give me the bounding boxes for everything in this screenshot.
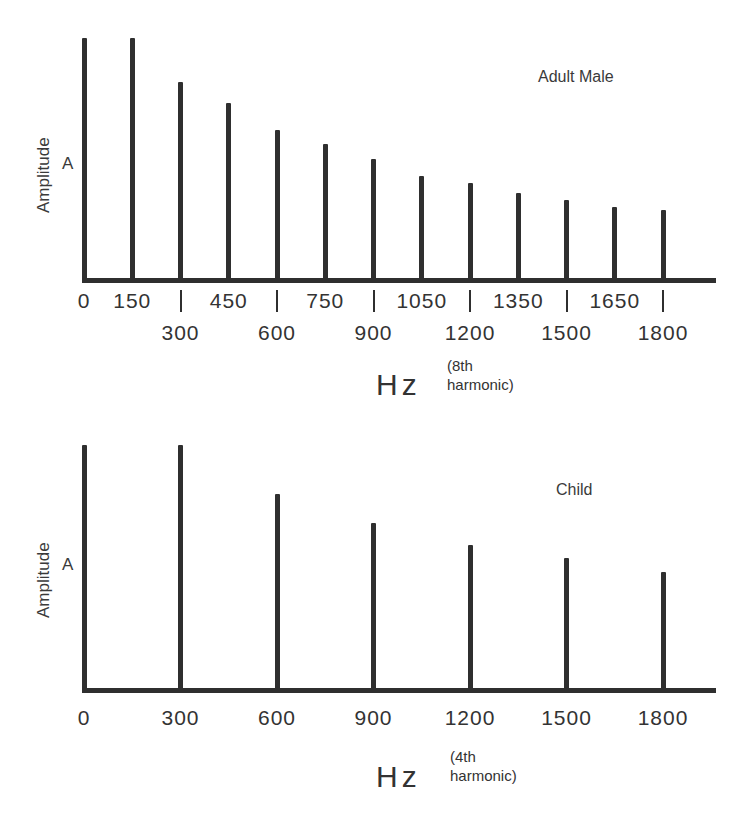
y-axis-label: Amplitude [34,542,54,618]
x-tick-label: 1200 [445,706,496,730]
x-tick-label: 0 [78,706,91,730]
harmonic-bar [564,200,569,280]
harmonic-bar [612,207,617,280]
child-spectrum-chart: Amplitude A Child 0300600900120015001800… [0,410,750,821]
tick-divider [469,290,471,312]
x-tick-label: 150 [113,289,151,313]
harmonic-bar [130,38,135,280]
y-axis-label: Amplitude [34,137,54,213]
x-tick-label: 750 [306,289,344,313]
harmonic-bar [178,82,183,280]
harmonic-bar [226,103,231,280]
series-title: Child [556,481,592,499]
harmonic-bar [275,130,280,280]
x-axis-line [82,278,716,283]
harmonic-bar [82,38,87,280]
harmonic-bar [661,572,666,690]
x-tick-label: 1500 [541,706,592,730]
x-tick-label: 1200 [445,321,496,345]
harmonic-bar [661,210,666,280]
y-axis-symbol: A [62,555,73,575]
x-axis-label: Hz [376,368,421,402]
x-tick-label: 900 [354,321,392,345]
harmonic-bar [82,445,87,690]
x-tick-label: 300 [161,706,199,730]
harmonic-bar [178,445,183,690]
y-axis-symbol: A [62,154,73,174]
x-tick-label: 300 [161,321,199,345]
adult-male-spectrum-chart: Amplitude A Adult Male 01504507501050135… [0,0,750,410]
x-axis-label: Hz [376,760,421,794]
harmonic-bar [419,176,424,280]
x-tick-label: 1500 [541,321,592,345]
x-tick-label: 1650 [589,289,640,313]
x-tick-label: 900 [354,706,392,730]
tick-divider [373,290,375,312]
harmonic-bar [516,193,521,280]
harmonic-annotation: (8th harmonic) [447,356,514,394]
harmonic-bar [371,159,376,280]
x-tick-label: 1800 [638,706,689,730]
tick-divider [180,290,182,312]
harmonic-bar [564,558,569,690]
series-title: Adult Male [538,68,614,86]
x-tick-label: 600 [258,321,296,345]
tick-divider [566,290,568,312]
harmonic-bar [468,545,473,690]
harmonic-bar [323,144,328,280]
x-tick-label: 1350 [493,289,544,313]
x-tick-label: 0 [78,289,91,313]
x-tick-label: 1800 [638,321,689,345]
tick-divider [276,290,278,312]
x-tick-label: 1050 [396,289,447,313]
harmonic-bar [468,183,473,280]
harmonic-bar [275,494,280,690]
harmonic-annotation: (4th harmonic) [450,747,517,785]
x-tick-label: 450 [210,289,248,313]
harmonic-bar [371,523,376,690]
x-tick-label: 600 [258,706,296,730]
tick-divider [662,290,664,312]
x-axis-line [82,688,716,693]
